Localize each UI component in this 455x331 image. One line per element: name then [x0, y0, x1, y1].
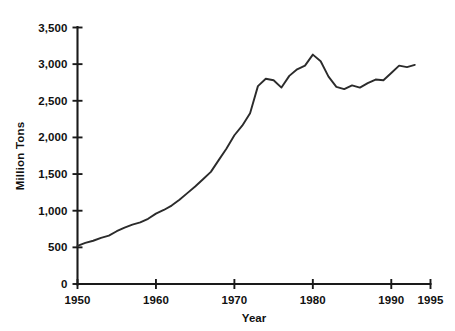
chart-axes	[77, 27, 431, 285]
y-tick-label: 1,500	[38, 168, 67, 180]
x-tick-label: 1995	[418, 294, 444, 306]
x-tick-label: 1950	[65, 294, 91, 306]
x-axis-title: Year	[242, 312, 266, 324]
x-tick-label: 1990	[378, 294, 404, 306]
y-tick-label: 0	[61, 278, 68, 290]
y-tick-label: 3,500	[38, 22, 67, 34]
x-tick-label: 1980	[300, 294, 326, 306]
chart-series-group	[78, 55, 415, 246]
y-tick-label: 2,000	[38, 131, 67, 143]
y-tick-label: 1,000	[38, 205, 67, 217]
line-chart-plot	[0, 0, 455, 331]
y-axis-title: Million Tons	[14, 121, 26, 190]
y-tick-label: 3,000	[38, 58, 67, 70]
y-tick-label: 2,500	[38, 95, 67, 107]
x-tick-label: 1960	[143, 294, 169, 306]
series-line-production	[78, 55, 415, 246]
x-tick-label: 1970	[221, 294, 247, 306]
chart-container: 05001,0001,5002,0002,5003,0003,500 19501…	[0, 0, 455, 331]
y-tick-label: 500	[48, 241, 68, 253]
